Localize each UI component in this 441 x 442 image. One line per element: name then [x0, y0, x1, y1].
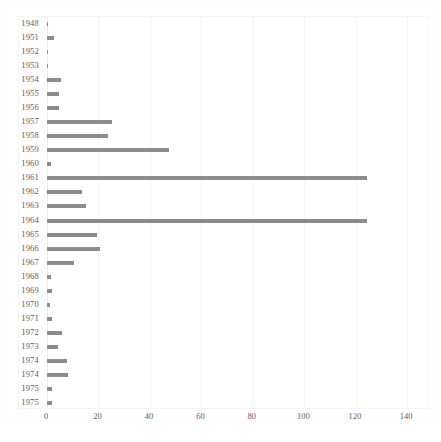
bar-row: [19, 199, 428, 213]
x-tick-label: 60: [196, 410, 205, 423]
bar[interactable]: [47, 50, 48, 54]
bar-row: [19, 171, 428, 185]
bar-row: [19, 228, 428, 242]
y-tick-label: 1967: [21, 255, 42, 269]
bar[interactable]: [47, 22, 48, 26]
y-tick-label: 1970: [21, 297, 42, 311]
bar-row: [19, 284, 428, 298]
x-tick-label: 40: [145, 410, 154, 423]
bar[interactable]: [47, 331, 62, 335]
y-tick-label: 1951: [21, 30, 42, 44]
y-tick-label: 1962: [21, 184, 42, 198]
bar[interactable]: [47, 106, 59, 110]
bar-row: [19, 298, 428, 312]
y-tick-label: 1961: [21, 170, 42, 184]
y-tick-label: 1971: [21, 311, 42, 325]
bar[interactable]: [47, 36, 54, 40]
bar-row: [19, 270, 428, 284]
y-tick-label: 1953: [21, 58, 42, 72]
bar[interactable]: [47, 162, 51, 166]
bar[interactable]: [47, 359, 67, 363]
bar[interactable]: [47, 303, 50, 307]
y-tick-label: 1957: [21, 114, 42, 128]
bar[interactable]: [47, 190, 82, 194]
y-tick-label: 1964: [21, 213, 42, 227]
x-tick-label: 80: [248, 410, 257, 423]
bar-row: [19, 312, 428, 326]
bar-row: [19, 256, 428, 270]
bar[interactable]: [47, 204, 86, 208]
y-tick-label: 1959: [21, 142, 42, 156]
bar[interactable]: [47, 134, 108, 138]
bar-row: [19, 73, 428, 87]
y-tick-label: 1956: [21, 100, 42, 114]
bar-row: [19, 87, 428, 101]
y-tick-label: 1963: [21, 198, 42, 212]
bar[interactable]: [47, 387, 52, 391]
y-tick-label: 1974: [21, 353, 42, 367]
bar-row: [19, 326, 428, 340]
y-tick-label: 1948: [21, 16, 42, 30]
bar-row: [19, 129, 428, 143]
bar-row: [19, 368, 428, 382]
bars-container: [19, 17, 428, 408]
bar[interactable]: [47, 64, 48, 68]
bar-row: [19, 340, 428, 354]
x-tick-label: 140: [400, 410, 413, 423]
y-tick-label: 1969: [21, 283, 42, 297]
y-tick-label: 1973: [21, 339, 42, 353]
bar[interactable]: [47, 92, 59, 96]
y-tick-label: 1952: [21, 44, 42, 58]
bar-row: [19, 382, 428, 396]
bar-row: [19, 214, 428, 228]
y-tick-label: 1954: [21, 72, 42, 86]
bar-row: [19, 59, 428, 73]
y-tick-label: 1955: [21, 86, 42, 100]
y-axis-tick-labels: 1948195119521953195419551956195719581959…: [0, 16, 42, 409]
y-tick-label: 1965: [21, 227, 42, 241]
y-tick-label: 1960: [21, 156, 42, 170]
bar-row: [19, 115, 428, 129]
y-tick-label: 1974: [21, 367, 42, 381]
bar[interactable]: [47, 289, 52, 293]
bar-row: [19, 185, 428, 199]
y-tick-label: 1975: [21, 395, 42, 409]
plot-area: [18, 16, 429, 409]
y-tick-label: 1975: [21, 381, 42, 395]
x-tick-label: 100: [297, 410, 310, 423]
x-tick-label: 0: [44, 410, 48, 423]
bar[interactable]: [47, 401, 52, 405]
bar-row: [19, 45, 428, 59]
bar[interactable]: [47, 148, 169, 152]
bar[interactable]: [47, 219, 367, 223]
bar[interactable]: [47, 233, 97, 237]
bar-row: [19, 101, 428, 115]
y-tick-label: 1958: [21, 128, 42, 142]
x-tick-label: 20: [93, 410, 102, 423]
bar-row: [19, 157, 428, 171]
x-tick-label: 120: [348, 410, 361, 423]
y-tick-label: 1968: [21, 269, 42, 283]
bar-row: [19, 242, 428, 256]
bar-row: [19, 354, 428, 368]
y-tick-label: 1972: [21, 325, 42, 339]
bar[interactable]: [47, 247, 100, 251]
bar[interactable]: [47, 78, 61, 82]
bar[interactable]: [47, 317, 52, 321]
bar-row: [19, 396, 428, 410]
bar-row: [19, 143, 428, 157]
bar[interactable]: [47, 345, 58, 349]
bar[interactable]: [47, 120, 112, 124]
x-axis-tick-labels: 020406080100120140: [0, 410, 441, 424]
bar[interactable]: [47, 261, 74, 265]
bar-row: [19, 31, 428, 45]
y-tick-label: 1966: [21, 241, 42, 255]
bar[interactable]: [47, 373, 68, 377]
bar-chart-figure: 1948195119521953195419551956195719581959…: [0, 0, 441, 442]
bar-row: [19, 17, 428, 31]
bar[interactable]: [47, 275, 51, 279]
bar[interactable]: [47, 176, 367, 180]
